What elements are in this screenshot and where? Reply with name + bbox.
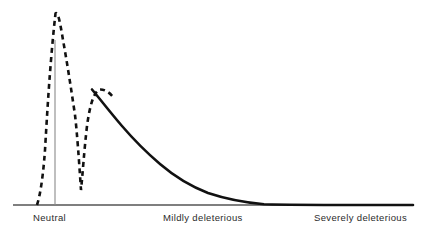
fitness-effects-figure: Neutral Mildly deleterious Severely dele… [0, 0, 421, 233]
axis-label-severely-deleterious: Severely deleterious [314, 212, 407, 223]
solid-distribution-curve [92, 90, 413, 206]
distribution-plot-svg [0, 0, 421, 233]
axis-label-mildly-deleterious: Mildly deleterious [163, 212, 243, 223]
dashed-distribution-curve [37, 13, 114, 205]
axis-label-neutral: Neutral [33, 212, 66, 223]
